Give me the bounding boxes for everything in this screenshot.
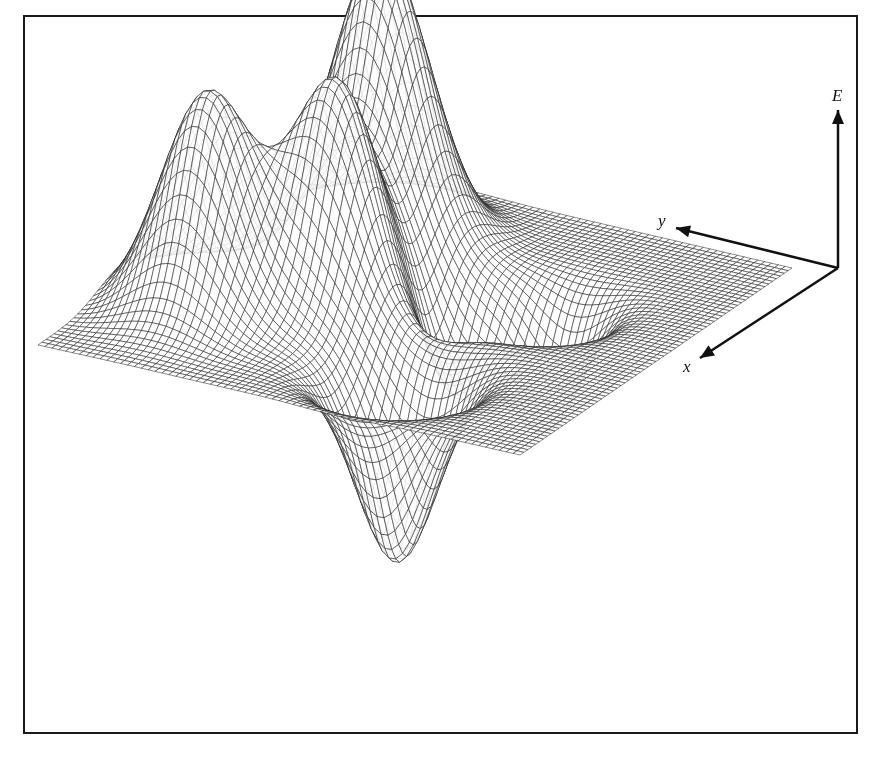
energy-surface-wireframe — [0, 0, 875, 760]
axis-label-x: x — [683, 357, 691, 377]
axis-label-y: y — [658, 211, 666, 231]
axis-label-e: E — [832, 86, 842, 106]
